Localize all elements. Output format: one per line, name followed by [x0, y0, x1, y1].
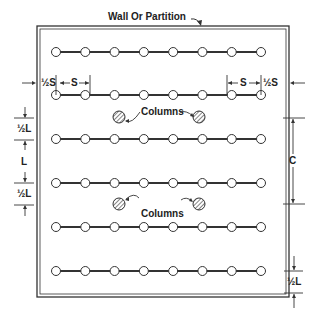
fixture-icon — [110, 48, 119, 57]
fixture-icon — [257, 179, 266, 188]
dim-half-l-bottom: ½L — [287, 277, 301, 287]
fixture-icon — [169, 91, 178, 100]
fixture-icon — [198, 91, 207, 100]
fixture-row — [52, 267, 266, 276]
fixture-icon — [139, 91, 148, 100]
fixture-icon — [110, 91, 119, 100]
fixture-icon — [169, 179, 178, 188]
fixture-icon — [81, 135, 90, 144]
fixture-icon — [52, 223, 61, 232]
fixture-icon — [198, 223, 207, 232]
dim-half-s-right: ½S — [263, 78, 278, 88]
fixture-icon — [110, 223, 119, 232]
fixture-icon — [198, 48, 207, 57]
dim-s-right: S — [240, 78, 247, 88]
wall-outline — [37, 26, 289, 297]
fixture-icon — [81, 223, 90, 232]
fixture-icon — [81, 48, 90, 57]
columns-label-bottom: Columns — [141, 209, 184, 219]
fixture-icon — [227, 48, 236, 57]
dim-half-l-lower: ½L — [17, 189, 31, 199]
fixture-icon — [227, 135, 236, 144]
luminaire-layout-diagram: Wall Or Partition Columns Columns ½S S S… — [0, 0, 319, 320]
fixture-icon — [139, 48, 148, 57]
fixture-icon — [52, 267, 61, 276]
columns-label-top: Columns — [141, 107, 184, 117]
fixture-icon — [52, 179, 61, 188]
dim-s-left: S — [71, 78, 78, 88]
column-leaders — [126, 112, 193, 202]
fixture-icon — [227, 223, 236, 232]
fixture-icon — [227, 179, 236, 188]
fixture-icon — [169, 48, 178, 57]
fixture-icon — [169, 223, 178, 232]
dim-l: L — [21, 157, 27, 167]
fixture-icon — [139, 179, 148, 188]
fixture-row — [52, 91, 266, 100]
fixture-icon — [52, 48, 61, 57]
fixture-icon — [110, 267, 119, 276]
fixture-icon — [139, 135, 148, 144]
fixture-icon — [198, 135, 207, 144]
column-icon — [113, 111, 205, 210]
fixture-row — [52, 223, 266, 232]
fixture-icon — [257, 267, 266, 276]
wall-label: Wall Or Partition — [108, 12, 186, 22]
fixture-icon — [257, 223, 266, 232]
fixture-icon — [257, 48, 266, 57]
dim-half-s-left: ½S — [41, 78, 56, 88]
dim-half-l-upper: ½L — [17, 124, 31, 134]
layout-drawing — [0, 0, 319, 320]
fixture-icon — [198, 179, 207, 188]
fixture-row — [52, 48, 266, 57]
fixture-icon — [139, 223, 148, 232]
fixture-icon — [81, 91, 90, 100]
fixture-icon — [110, 135, 119, 144]
fixture-icon — [198, 267, 207, 276]
dim-c: C — [289, 156, 296, 166]
fixture-icon — [257, 135, 266, 144]
fixture-icon — [227, 267, 236, 276]
fixture-row — [52, 179, 266, 188]
fixture-icon — [81, 267, 90, 276]
fixture-icon — [227, 91, 236, 100]
fixture-icon — [52, 135, 61, 144]
fixture-icon — [81, 179, 90, 188]
fixture-icon — [110, 179, 119, 188]
fixture-icon — [169, 267, 178, 276]
fixture-icon — [139, 267, 148, 276]
fixture-row — [52, 135, 266, 144]
fixture-rows — [52, 48, 266, 276]
fixture-icon — [169, 135, 178, 144]
